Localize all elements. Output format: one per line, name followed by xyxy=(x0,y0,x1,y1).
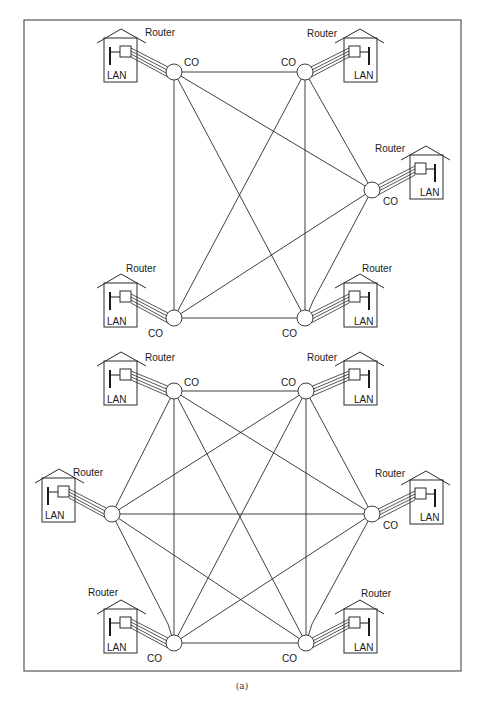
lan-label: LAN xyxy=(107,394,126,405)
trunk-lines xyxy=(310,619,349,648)
site-right: Router LAN CO xyxy=(364,143,450,207)
co-label: CO xyxy=(282,328,297,339)
co-label: CO xyxy=(281,57,296,68)
site-bottom-right: Router LAN CO xyxy=(282,263,393,339)
co-node-icon xyxy=(297,310,313,326)
co-label: CO xyxy=(281,377,296,388)
router-label: Router xyxy=(145,27,176,38)
router-label: Router xyxy=(375,143,406,154)
co-label: CO xyxy=(148,328,163,339)
co-label: CO xyxy=(282,653,297,664)
lan-label: LAN xyxy=(354,70,373,81)
co-node-icon xyxy=(364,182,380,198)
trunk-lines xyxy=(376,491,415,519)
trunk-lines xyxy=(310,371,349,396)
co-label: CO xyxy=(383,520,398,531)
site-bottom-left: Router LAN CO xyxy=(88,587,182,664)
co-node-icon xyxy=(166,383,182,399)
co-label: CO xyxy=(184,377,199,388)
panel-bottom: Router LAN CO Router LAN CO xyxy=(35,352,450,664)
co-node-icon xyxy=(166,635,182,651)
mesh-edges xyxy=(174,72,372,318)
lan-label: LAN xyxy=(420,187,439,198)
router-label: Router xyxy=(88,587,119,598)
site-top-left: Router LAN CO xyxy=(97,27,199,82)
co-node-icon xyxy=(104,506,120,522)
router-label: Router xyxy=(126,263,157,274)
mesh-edges xyxy=(112,391,372,643)
co-node-icon xyxy=(298,635,314,651)
router-label: Router xyxy=(307,28,338,39)
lan-label: LAN xyxy=(45,510,64,521)
site-left: Router LAN xyxy=(35,467,120,522)
lan-label: LAN xyxy=(107,316,126,327)
router-label: Router xyxy=(73,467,104,478)
co-label: CO xyxy=(147,653,162,664)
lan-label: LAN xyxy=(354,394,373,405)
site-top-right: Router LAN CO xyxy=(281,28,384,82)
router-label: Router xyxy=(362,263,393,274)
network-diagram: Router LAN CO Router LAN CO xyxy=(0,0,482,702)
router-label: Router xyxy=(375,468,406,479)
lan-label: LAN xyxy=(420,512,439,523)
site-right: Router LAN CO xyxy=(364,468,450,531)
co-node-icon xyxy=(364,506,380,522)
panel-top: Router LAN CO Router LAN CO xyxy=(97,27,450,339)
lan-label: LAN xyxy=(354,316,373,327)
figure-frame xyxy=(24,20,461,671)
site-bottom-right: Router LAN CO xyxy=(282,588,392,664)
co-node-icon xyxy=(166,310,182,326)
co-node-icon xyxy=(298,383,314,399)
lan-label: LAN xyxy=(107,70,126,81)
co-label: CO xyxy=(383,196,398,207)
router-label: Router xyxy=(145,352,176,363)
co-node-icon xyxy=(166,64,182,80)
trunk-lines xyxy=(309,294,349,323)
router-label: Router xyxy=(361,588,392,599)
figure-caption: (a) xyxy=(236,681,248,691)
router-label: Router xyxy=(307,352,338,363)
trunk-lines xyxy=(309,48,349,77)
trunk-lines xyxy=(376,166,415,195)
co-label: CO xyxy=(184,57,199,68)
co-node-icon xyxy=(297,64,313,80)
lan-label: LAN xyxy=(107,642,126,653)
lan-label: LAN xyxy=(354,642,373,653)
site-bottom-left: Router LAN CO xyxy=(97,263,182,339)
